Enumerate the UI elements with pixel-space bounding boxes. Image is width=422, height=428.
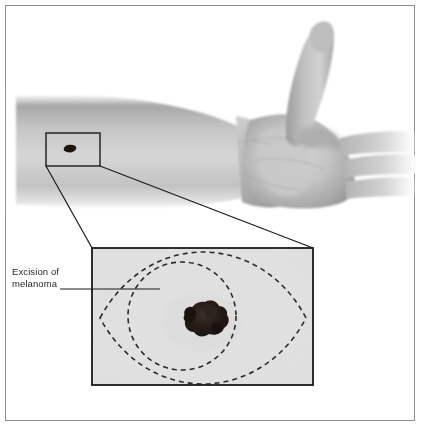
forearm-left-fade (0, 86, 60, 216)
index-finger (340, 131, 414, 156)
figure-root: Excision of melanoma (0, 0, 422, 428)
middle-finger (344, 154, 416, 178)
medical-illustration-artwork (0, 0, 422, 428)
excision-of-melanoma-label: Excision of melanoma (12, 266, 92, 289)
arm-and-hand-illustration (0, 21, 416, 216)
magnified-skin-inset (92, 248, 313, 385)
thumb-web-space (299, 127, 344, 150)
fingers (340, 131, 416, 199)
ring-finger (346, 177, 414, 199)
